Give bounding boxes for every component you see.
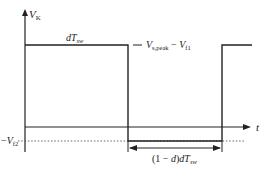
off-duration-dimension: (1 − d)dTsw <box>128 141 222 165</box>
low-level-label: −Vf2 <box>1 135 18 147</box>
voltage-waveform-diagram: VK t dTsw Vs,peak − Vf1 −Vf2 (1 − d)dTsw <box>0 0 269 171</box>
high-level-label: Vs,peak − Vf1 <box>146 39 191 51</box>
y-axis-arrow-icon <box>22 9 28 16</box>
on-duration-label: dTsw <box>66 32 84 44</box>
x-axis-label: t <box>256 121 260 133</box>
y-axis: VK <box>22 8 41 152</box>
y-axis-label: VK <box>29 8 41 22</box>
x-axis: t <box>25 121 260 133</box>
off-duration-label: (1 − d)dTsw <box>152 153 197 165</box>
x-axis-arrow-icon <box>243 124 251 130</box>
